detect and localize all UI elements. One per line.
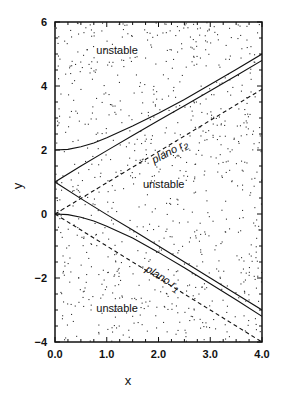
- annotations: unstableunstableunstableplano r2plano r1: [96, 44, 191, 314]
- x-tick-label: 2.0: [151, 348, 166, 360]
- y-tick-label: 0: [41, 208, 47, 220]
- region-label-unstable: unstable: [143, 178, 185, 190]
- y-tick-label: 6: [41, 16, 47, 28]
- plane-label-r2: plano r2: [149, 137, 191, 169]
- x-tick-label: 4.0: [254, 348, 269, 360]
- y-tick-label: −2: [34, 272, 47, 284]
- plane-label-r1: plano r1: [141, 262, 183, 296]
- x-tick-label: 1.0: [99, 348, 114, 360]
- y-axis-label: y: [10, 182, 25, 189]
- region-label-unstable: unstable: [96, 302, 138, 314]
- region-label-unstable: unstable: [96, 44, 138, 56]
- y-tick-label: −4: [34, 336, 47, 348]
- y-tick-label: 4: [41, 80, 48, 92]
- y-tick-label: 2: [41, 144, 47, 156]
- series-line-3: [55, 182, 262, 310]
- x-tick-label: 0.0: [47, 348, 62, 360]
- stability-chart: 0.01.02.03.04.0−4−20246 x y unstableunst…: [0, 0, 282, 402]
- x-axis-label: x: [125, 373, 132, 388]
- x-tick-label: 3.0: [203, 348, 218, 360]
- data-series: [55, 54, 262, 342]
- series-line-0: [55, 54, 262, 150]
- series-line-4: [55, 214, 262, 316]
